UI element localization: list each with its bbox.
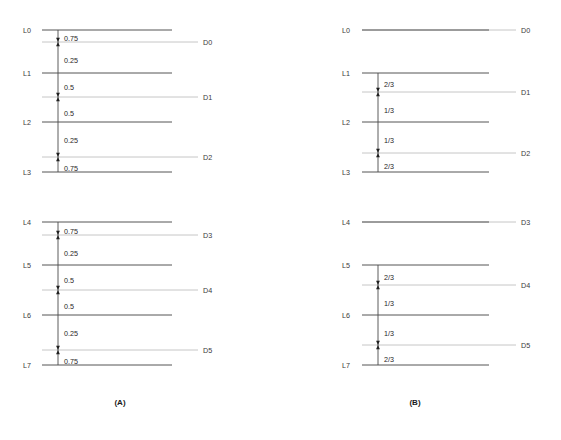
d-node-label: D3 <box>521 218 530 227</box>
edge-L1-D0: 0.25 <box>56 42 78 73</box>
d-node-label: D4 <box>203 286 212 295</box>
edge-L6-D4: 1/3 <box>376 285 394 315</box>
edge-L6-D4: 0.5 <box>56 290 74 315</box>
edge-weight-label: 1/3 <box>384 329 394 338</box>
panel-a: D0D1D2D3D4D5L0L1L2L3L4L5L6L70.750.250.50… <box>23 26 212 407</box>
d-node-label: D0 <box>521 26 530 35</box>
edge-L2-D1: 1/3 <box>376 92 394 122</box>
edge-L6-D5: 1/3 <box>376 315 394 345</box>
edge-weight-label: 2/3 <box>384 355 394 364</box>
l-node-label: L7 <box>342 361 350 370</box>
edge-weight-label: 0.5 <box>64 302 74 311</box>
d-node-label: D2 <box>203 153 212 162</box>
arrow-head-icon <box>56 38 60 42</box>
edge-L3-D2: 0.75 <box>56 157 78 173</box>
l-node-label: L0 <box>23 26 31 35</box>
edge-weight-label: 0.25 <box>64 249 78 258</box>
arrow-head-icon <box>376 149 380 153</box>
l-node-label: L7 <box>23 361 31 370</box>
arrow-head-icon <box>56 93 60 97</box>
d-node-label: D0 <box>203 38 212 47</box>
arrow-head-icon <box>56 235 60 239</box>
arrow-head-icon <box>56 231 60 235</box>
edge-weight-label: 1/3 <box>384 106 394 115</box>
arrow-head-icon <box>56 346 60 350</box>
edge-L2-D1: 0.5 <box>56 97 74 122</box>
l-node-label: L6 <box>342 311 350 320</box>
edge-weight-label: 0.75 <box>64 227 78 236</box>
edge-L7-D5: 2/3 <box>376 345 394 365</box>
arrow-head-icon <box>376 281 380 285</box>
l-node-label: L2 <box>23 118 31 127</box>
edge-L6-D5: 0.25 <box>56 315 78 350</box>
edge-weight-label: 2/3 <box>384 273 394 282</box>
panel-caption: (B) <box>409 398 420 407</box>
arrow-head-icon <box>376 92 380 96</box>
edge-L5-D4: 0.5 <box>56 265 74 290</box>
d-node-label: D1 <box>203 93 212 102</box>
edge-weight-label: 0.75 <box>64 357 78 366</box>
arrow-head-icon <box>56 157 60 161</box>
l-node-label: L3 <box>342 168 350 177</box>
edge-weight-label: 0.5 <box>64 276 74 285</box>
l-node-label: L5 <box>23 261 31 270</box>
l-node-label: L5 <box>342 261 350 270</box>
edge-weight-label: 0.75 <box>64 164 78 173</box>
bipartite-weight-diagram: D0D1D2D3D4D5L0L1L2L3L4L5L6L70.750.250.50… <box>0 0 561 440</box>
edge-L2-D2: 0.25 <box>56 122 78 157</box>
edge-weight-label: 0.25 <box>64 56 78 65</box>
d-node-label: D5 <box>203 346 212 355</box>
arrow-head-icon <box>56 290 60 294</box>
edge-weight-label: 2/3 <box>384 162 394 171</box>
arrow-head-icon <box>56 97 60 101</box>
arrow-head-icon <box>376 153 380 157</box>
edge-L0-D0: 0.75 <box>56 30 78 43</box>
l-node-label: L4 <box>342 218 350 227</box>
edge-weight-label: 2/3 <box>384 80 394 89</box>
l-node-label: L3 <box>23 168 31 177</box>
l-node-label: L4 <box>23 218 31 227</box>
edge-weight-label: 0.25 <box>64 136 78 145</box>
d-node-label: D4 <box>521 281 530 290</box>
edge-L2-D2: 1/3 <box>376 122 394 153</box>
arrow-head-icon <box>376 341 380 345</box>
arrow-head-icon <box>56 153 60 157</box>
edge-weight-label: 0.5 <box>64 109 74 118</box>
edge-L5-D4: 2/3 <box>376 265 394 285</box>
edge-weight-label: 1/3 <box>384 299 394 308</box>
panel-b: D0D1D2D3D4D5L0L1L2L3L4L5L6L72/31/31/32/3… <box>342 26 530 407</box>
d-node-label: D3 <box>203 231 212 240</box>
edge-L7-D5: 0.75 <box>56 350 78 366</box>
edge-weight-label: 0.75 <box>64 34 78 43</box>
edge-L3-D2: 2/3 <box>376 153 394 172</box>
l-node-label: L1 <box>23 69 31 78</box>
arrow-head-icon <box>376 285 380 289</box>
l-node-label: L1 <box>342 69 350 78</box>
edge-L1-D1: 0.5 <box>56 73 74 97</box>
d-node-label: D1 <box>521 88 530 97</box>
panels-group: D0D1D2D3D4D5L0L1L2L3L4L5L6L70.750.250.50… <box>23 26 530 407</box>
edge-L1-D1: 2/3 <box>376 73 394 92</box>
arrow-head-icon <box>56 42 60 46</box>
d-node-label: D2 <box>521 149 530 158</box>
l-node-label: L2 <box>342 118 350 127</box>
arrow-head-icon <box>56 286 60 290</box>
edge-weight-label: 0.25 <box>64 329 78 338</box>
figure-root: D0D1D2D3D4D5L0L1L2L3L4L5L6L70.750.250.50… <box>0 0 561 440</box>
l-node-label: L6 <box>23 311 31 320</box>
edge-weight-label: 1/3 <box>384 136 394 145</box>
edge-L5-D3: 0.25 <box>56 235 78 265</box>
arrow-head-icon <box>376 345 380 349</box>
arrow-head-icon <box>56 350 60 354</box>
edge-L4-D3: 0.75 <box>56 222 78 236</box>
arrow-head-icon <box>376 88 380 92</box>
edge-weight-label: 0.5 <box>64 83 74 92</box>
d-node-label: D5 <box>521 341 530 350</box>
l-node-label: L0 <box>342 26 350 35</box>
panel-caption: (A) <box>114 398 125 407</box>
